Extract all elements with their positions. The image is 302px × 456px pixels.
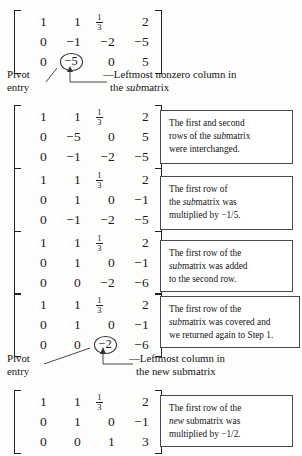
callout-1-description-line2: the submatrix (103, 81, 236, 94)
textbook-page-figure: 1 1 1 3 2 0 −1 −2 −5 0 −5 0 5 Pivot (0, 0, 302, 456)
matrix-cell: 2 (120, 236, 154, 250)
fraction-numerator: 1 (96, 296, 102, 305)
matrix-1: 1 1 1 3 2 0 −1 −2 −5 0 −5 0 5 (14, 10, 162, 74)
matrix-cell: 5 (120, 55, 154, 69)
note-line: the submatrix was (169, 196, 285, 209)
matrix-cell: 1 (52, 318, 86, 332)
note-line: The first row of the (169, 402, 285, 415)
matrix-5: 1 1 1 3 2 0 1 0 −1 0 0 −2 −6 (14, 293, 162, 357)
matrix-cell: 0 (86, 130, 120, 144)
matrix-grid: 1 1 1 3 2 0 1 0 −1 0 −1 −2 −5 (21, 168, 155, 232)
matrix-cell-fraction: 1 3 (86, 296, 120, 315)
matrix-cell: 0 (22, 213, 52, 227)
matrix-cell: 0 (86, 193, 120, 207)
matrix-cell: 1 (22, 298, 52, 312)
matrix-cell-fraction: 1 3 (86, 13, 120, 32)
pivot-entry-circled: −2 (86, 336, 120, 353)
note-line: to the second row. (169, 273, 285, 286)
matrix-cell: 0 (52, 435, 86, 449)
matrix-cell-fraction: 1 3 (86, 234, 120, 253)
matrix-cell: 2 (120, 298, 154, 312)
matrix-2: 1 1 1 3 2 0 −5 0 5 0 −1 −2 −5 (14, 105, 162, 169)
matrix-cell: 0 (86, 55, 120, 69)
fraction-denominator: 3 (96, 305, 102, 315)
matrix-cell: 1 (52, 110, 86, 124)
fraction-denominator: 3 (96, 117, 102, 127)
note-line: were interchanged. (169, 143, 285, 156)
matrix-cell: 0 (22, 435, 52, 449)
matrix-cell: 1 (52, 193, 86, 207)
pivot-label-line2: entry (7, 81, 30, 94)
note-line: The first row of the (169, 303, 292, 316)
callout-1-pivot-label: Pivot entry (7, 68, 30, 95)
matrix-cell: 0 (86, 318, 120, 332)
matrix-cell: 2 (120, 395, 154, 409)
matrix-cell: 1 (52, 415, 86, 429)
matrix-bracket-left (14, 10, 21, 74)
matrix-3: 1 1 1 3 2 0 1 0 −1 0 −1 −2 −5 (14, 168, 162, 232)
matrix-cell: 1 (22, 395, 52, 409)
matrix-grid: 1 1 1 3 2 0 1 0 −1 0 0 −2 −6 (21, 231, 155, 295)
matrix-cell: 0 (22, 55, 52, 69)
matrix-cell: 1 (52, 173, 86, 187)
matrix-cell: −2 (86, 150, 120, 164)
matrix-cell-fraction: 1 3 (86, 393, 120, 412)
note-1: The first and second rows of the submatr… (160, 110, 293, 164)
matrix-cell: 0 (22, 415, 52, 429)
matrix-bracket-left (14, 231, 21, 295)
matrix-cell: 0 (22, 150, 52, 164)
matrix-cell: −6 (120, 276, 154, 290)
callout-2-description-line2: the new submatrix (129, 365, 225, 378)
fraction-denominator: 3 (96, 180, 102, 190)
note-line: The first and second (169, 117, 285, 130)
fraction-numerator: 1 (96, 13, 102, 22)
pivot-label-line1: Pivot (7, 352, 30, 365)
pivot-label-line2: entry (7, 365, 30, 378)
fraction-numerator: 1 (96, 171, 102, 180)
pivot-value: −5 (60, 53, 83, 70)
matrix-cell: 1 (22, 15, 52, 29)
matrix-cell: −2 (86, 213, 120, 227)
callout-2-description: —Leftmost column in the new submatrix (129, 352, 225, 379)
matrix-cell: −2 (86, 35, 120, 49)
matrix-cell: 0 (52, 276, 86, 290)
fraction-denominator: 3 (96, 22, 102, 32)
note-2: The first row of the submatrix was multi… (160, 176, 293, 230)
matrix-grid: 1 1 1 3 2 0 −1 −2 −5 0 −5 0 5 (21, 10, 155, 74)
matrix-cell: 1 (22, 173, 52, 187)
matrix-cell: −5 (120, 213, 154, 227)
matrix-4: 1 1 1 3 2 0 1 0 −1 0 0 −2 −6 (14, 231, 162, 295)
matrix-cell-fraction: 1 3 (86, 108, 120, 127)
matrix-grid: 1 1 1 3 2 0 1 0 −1 0 0 1 3 (21, 390, 155, 454)
matrix-bracket-left (14, 105, 21, 169)
matrix-cell: −1 (52, 150, 86, 164)
matrix-cell: 1 (52, 256, 86, 270)
note-line: new submatrix was (169, 415, 285, 428)
matrix-cell: −1 (120, 193, 154, 207)
matrix-cell: 0 (86, 256, 120, 270)
matrix-6: 1 1 1 3 2 0 1 0 −1 0 0 1 3 (14, 390, 162, 454)
matrix-cell: 2 (120, 110, 154, 124)
matrix-cell: −5 (120, 150, 154, 164)
matrix-cell: −6 (120, 338, 154, 352)
note-4: The first row of the submatrix was cover… (160, 296, 300, 348)
matrix-cell: −1 (52, 213, 86, 227)
note-line: multiplied by −1/2. (169, 428, 285, 441)
matrix-cell: 0 (86, 415, 120, 429)
fraction-numerator: 1 (96, 108, 102, 117)
fraction-denominator: 3 (96, 402, 102, 412)
matrix-cell: −5 (52, 130, 86, 144)
matrix-cell: 0 (22, 276, 52, 290)
note-line: The first row of (169, 183, 285, 196)
note-line: submatrix was covered and (169, 316, 292, 329)
matrix-cell: 0 (22, 318, 52, 332)
matrix-cell: 0 (22, 338, 52, 352)
matrix-cell: −5 (120, 35, 154, 49)
matrix-bracket-left (14, 390, 21, 454)
fraction-numerator: 1 (96, 234, 102, 243)
fraction-numerator: 1 (96, 393, 102, 402)
matrix-cell: −1 (120, 415, 154, 429)
matrix-grid: 1 1 1 3 2 0 −5 0 5 0 −1 −2 −5 (21, 105, 155, 169)
note-line: we returned again to Step 1. (169, 329, 292, 342)
matrix-cell: 5 (120, 130, 154, 144)
